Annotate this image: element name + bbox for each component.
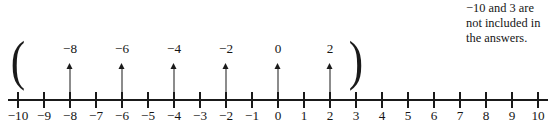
axis-tick-label: 4 [379,109,386,123]
axis-tick-label: 1 [301,109,308,123]
axis-tick [485,92,487,108]
axis-tick [433,92,435,108]
arrow-shaft [70,68,71,100]
axis-tick [303,92,305,108]
arrow-shaft [330,68,331,100]
axis-tick-label: −3 [193,109,207,123]
callout-label: −2 [219,42,233,56]
axis-tick [43,92,45,108]
interval-open-paren: ( [11,34,25,88]
axis-tick-label: 3 [353,109,360,123]
axis-tick-label: 9 [509,109,516,123]
axis-tick-label: 5 [405,109,412,123]
interval-close-paren: ) [349,34,363,88]
axis-tick-label: −10 [8,109,29,123]
axis-tick [355,92,357,108]
axis-tick [407,92,409,108]
arrow-shaft [226,68,227,100]
axis-tick [381,92,383,108]
arrow-shaft [122,68,123,100]
axis-tick-label: 2 [327,109,334,123]
axis-tick [17,92,19,108]
axis-tick-label: 10 [531,109,544,123]
axis-tick-label: 8 [483,109,490,123]
callout-arrow-up-icon [222,63,231,100]
axis-tick-label: 6 [431,109,438,123]
callout-label: −8 [63,42,77,56]
callout-label: 2 [327,42,334,56]
axis-tick-label: 7 [457,109,464,123]
callout-arrow-up-icon [170,63,179,100]
axis-tick-label: −6 [115,109,129,123]
axis-tick [251,92,253,108]
axis-tick [537,92,539,108]
axis-tick [511,92,513,108]
axis-tick [459,92,461,108]
axis-tick-label: −8 [63,109,77,123]
axis-tick-label: −1 [245,109,259,123]
axis-tick [199,92,201,108]
callout-arrow-up-icon [118,63,127,100]
number-line-figure: −10 and 3 are not included in the answer… [0,0,556,129]
axis-tick-label: −9 [37,109,51,123]
annotation-line-2: not included in [466,16,556,31]
axis-tick-label: −2 [219,109,233,123]
callout-arrow-up-icon [66,63,75,100]
axis-tick-label: 0 [275,109,282,123]
axis-tick [147,92,149,108]
callout-arrow-up-icon [274,63,283,100]
callout-label: −6 [115,42,129,56]
annotation-line-1: −10 and 3 are [466,1,556,16]
arrow-shaft [174,68,175,100]
axis-tick-label: −5 [141,109,155,123]
annotation-note: −10 and 3 are not included in the answer… [466,1,556,47]
arrow-shaft [278,68,279,100]
annotation-line-3: the answers. [466,31,556,46]
callout-label: −4 [167,42,181,56]
callout-arrow-up-icon [326,63,335,100]
callout-label: 0 [275,42,282,56]
axis-tick-label: −4 [167,109,181,123]
axis-tick [95,92,97,108]
axis-tick-label: −7 [89,109,103,123]
